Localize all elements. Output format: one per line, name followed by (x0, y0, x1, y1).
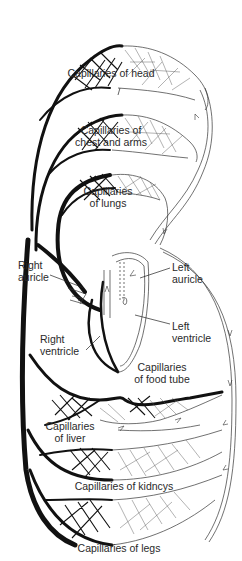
label-line: Capillaries of (75, 124, 147, 136)
label-right-auricle: Right auricle (18, 259, 49, 283)
label-line: Capillaries of head (68, 67, 155, 79)
label-capillaries-of-legs: Capillaries of legs (78, 542, 161, 554)
label-line: of liver (45, 432, 94, 444)
label-capillaries-of-lungs: Capillaries of lungs (83, 185, 132, 209)
label-capillaries-of-chest-and-arms: Capillaries of chest and arms (75, 124, 147, 148)
label-line: auricle (18, 271, 49, 283)
label-line: Capillaries (134, 361, 189, 373)
label-capillaries-of-food-tube: Capillaries of food tube (134, 361, 189, 385)
label-line: Left (172, 320, 211, 332)
aorta-right-trunk (150, 88, 236, 542)
label-left-ventricle: Left ventricle (172, 320, 211, 344)
label-line: of food tube (134, 373, 189, 385)
label-line: ventricle (40, 345, 79, 357)
heart (68, 253, 149, 372)
label-capillaries-of-head: Capillaries of head (68, 67, 155, 79)
label-line: auricle (172, 273, 203, 285)
label-capillaries-of-liver: Capillaries of liver (45, 420, 94, 444)
label-left-auricle: Left auricle (172, 261, 203, 285)
label-line: Right (18, 259, 49, 271)
label-line: ventricle (172, 332, 211, 344)
label-capillaries-of-kidneys: Capillaries of kidncys (75, 480, 174, 492)
label-line: Capillaries (83, 185, 132, 197)
label-line: Right (40, 333, 79, 345)
label-right-ventricle: Right ventricle (40, 333, 79, 357)
label-line: chest and arms (75, 136, 147, 148)
label-line: Capillaries (45, 420, 94, 432)
label-line: of lungs (83, 197, 132, 209)
label-line: Capillaries of legs (78, 542, 161, 554)
label-line: Capillaries of kidncys (75, 480, 174, 492)
label-line: Left (172, 261, 203, 273)
leader-left-ventricle (135, 315, 170, 324)
